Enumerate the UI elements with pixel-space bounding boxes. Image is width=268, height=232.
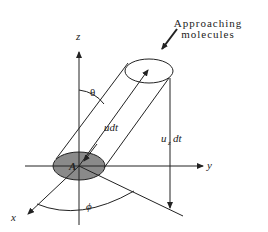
x-axis-label: x xyxy=(10,211,16,223)
uz-label: u xyxy=(161,132,167,144)
area-label: A xyxy=(68,160,76,172)
uz-subscript: z xyxy=(167,139,171,147)
molecular-flux-diagram: Approaching molecules z y x θ ϕ A udt u … xyxy=(0,0,268,232)
projection-line xyxy=(79,166,183,216)
approaching-arrow xyxy=(162,29,177,49)
x-axis xyxy=(28,166,79,214)
dt-label: dt xyxy=(173,132,183,144)
udt-arrow xyxy=(79,70,148,166)
molecules-label: molecules xyxy=(181,28,235,40)
y-axis-label: y xyxy=(206,159,212,171)
phi-label: ϕ xyxy=(86,200,92,212)
cylinder-top-ellipse xyxy=(125,59,173,83)
theta-label: θ xyxy=(90,86,95,98)
z-axis-label: z xyxy=(75,30,81,42)
cylinder-left-side xyxy=(56,63,128,159)
udt-label: udt xyxy=(104,121,119,133)
